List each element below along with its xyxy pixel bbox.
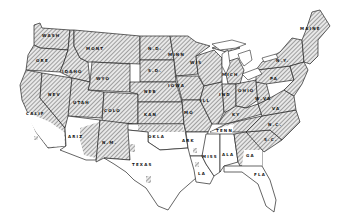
- us-map: WASH ORE CALIF IDAHO NEV MONT WYO UTAH C…: [0, 0, 339, 224]
- state-new-england: [302, 10, 330, 64]
- label-fla: FLA: [254, 172, 266, 177]
- label-mich: MICH: [222, 72, 239, 77]
- label-sd: S.D.: [148, 68, 162, 73]
- label-ohio: OHIO: [238, 88, 254, 93]
- label-texas: TEXAS: [132, 162, 153, 167]
- label-nc: N.C.: [268, 122, 282, 127]
- state-okla-shade: [138, 125, 184, 132]
- label-la: LA: [198, 171, 206, 176]
- state-fla: [224, 166, 276, 212]
- label-nd: N.D.: [148, 46, 163, 51]
- label-ala: ALA: [222, 152, 234, 157]
- label-iowa: IOWA: [168, 83, 185, 88]
- label-ind: IND: [219, 92, 231, 97]
- label-kan: KAN: [144, 112, 157, 117]
- label-minn: MINN: [168, 52, 185, 57]
- state-mont: [74, 30, 140, 64]
- label-pa: PA: [270, 76, 278, 81]
- label-ny: N.Y.: [276, 58, 289, 63]
- label-wyo: WYO: [96, 76, 110, 81]
- label-tenn: TENN: [216, 128, 233, 133]
- label-ore: ORE: [36, 58, 49, 63]
- label-wis: WIS: [190, 60, 202, 65]
- state-ohio: [236, 80, 258, 108]
- label-colo: COLO: [104, 108, 121, 113]
- label-neb: NEB: [144, 89, 157, 94]
- label-ariz: ARIZ: [68, 134, 83, 139]
- label-wash: WASH: [42, 33, 60, 38]
- label-ga: GA: [246, 153, 255, 158]
- label-miss: MISS: [202, 154, 218, 159]
- label-ky: KY: [232, 112, 240, 117]
- label-sc: S.C.: [264, 137, 278, 142]
- label-nev: NEV: [48, 92, 61, 97]
- label-idaho: IDAHO: [62, 69, 83, 74]
- label-calif: CALIF: [26, 111, 45, 116]
- label-nm: N.M.: [102, 140, 117, 145]
- label-mont: MONT: [86, 46, 104, 51]
- label-ark: ARK: [182, 138, 195, 143]
- label-ill: ILL: [200, 98, 210, 103]
- label-va: VA: [272, 106, 280, 111]
- label-okla: OKLA: [148, 134, 165, 139]
- label-wva: W.VA: [255, 96, 271, 101]
- label-maine: MAINE: [300, 26, 321, 31]
- label-mo: MO: [184, 110, 194, 115]
- label-utah: UTAH: [73, 100, 90, 105]
